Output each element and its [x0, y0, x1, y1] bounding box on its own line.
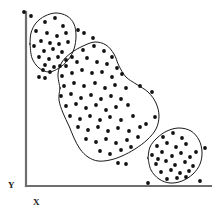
data-point: [187, 169, 191, 173]
data-point: [32, 44, 36, 48]
data-point: [92, 44, 96, 48]
data-point: [170, 154, 174, 158]
data-point: [164, 159, 168, 163]
data-point: [75, 60, 79, 64]
data-point: [84, 106, 88, 110]
data-point: [119, 148, 123, 152]
data-point: [99, 97, 103, 101]
data-point: [114, 141, 118, 145]
data-point: [119, 97, 123, 101]
data-point: [22, 10, 26, 14]
data-point: [37, 75, 41, 79]
data-point: [39, 39, 43, 43]
data-point: [104, 137, 108, 141]
data-point: [43, 63, 47, 67]
data-point: [43, 76, 47, 80]
data-point: [115, 66, 119, 70]
data-point: [119, 118, 123, 122]
data-point: [178, 171, 182, 175]
cluster-contour-cluster-center: [58, 42, 159, 161]
data-point: [131, 114, 135, 118]
data-point: [161, 135, 165, 139]
data-point: [198, 179, 202, 183]
data-point: [95, 60, 99, 64]
data-point: [109, 94, 113, 98]
data-point: [98, 149, 102, 153]
data-point: [82, 31, 86, 35]
data-point: [169, 168, 173, 172]
data-point: [116, 126, 120, 130]
data-point: [175, 176, 179, 180]
data-point: [138, 125, 142, 129]
data-point: [155, 144, 159, 148]
data-point: [124, 86, 128, 90]
data-point: [179, 151, 183, 155]
data-point: [174, 145, 178, 149]
data-point: [150, 153, 154, 157]
data-point: [129, 145, 133, 149]
data-point: [98, 118, 102, 122]
data-point: [70, 55, 74, 59]
data-point: [126, 103, 130, 107]
data-point: [64, 64, 68, 68]
data-point: [60, 50, 64, 54]
data-point: [86, 128, 90, 132]
data-point: [41, 68, 45, 72]
data-point: [76, 125, 80, 129]
data-point: [93, 81, 97, 85]
data-point: [57, 42, 61, 46]
data-point: [188, 155, 192, 159]
cluster-contours: [30, 13, 202, 183]
data-point: [29, 14, 33, 18]
data-point: [125, 138, 129, 142]
data-point: [124, 162, 128, 166]
data-point: [43, 20, 47, 24]
data-point: [68, 114, 72, 118]
data-point: [74, 102, 78, 106]
data-point: [55, 34, 59, 38]
data-point: [52, 65, 56, 69]
data-point: [180, 136, 184, 140]
data-point: [120, 72, 124, 76]
data-point: [160, 150, 164, 154]
data-point: [171, 131, 175, 135]
cluster-contour-cluster-bottom-right: [148, 128, 202, 183]
data-point: [100, 70, 104, 74]
data-point: [102, 49, 106, 53]
data-point: [62, 84, 66, 88]
data-point: [81, 48, 85, 52]
data-point: [80, 68, 84, 72]
data-point: [110, 75, 114, 79]
data-point: [105, 62, 109, 66]
data-point: [194, 150, 198, 154]
data-point: [56, 55, 60, 59]
data-point: [37, 55, 41, 59]
data-point: [61, 24, 65, 28]
data-point: [183, 160, 187, 164]
data-point: [106, 129, 110, 133]
data-point: [103, 86, 107, 90]
data-point: [79, 96, 83, 100]
scatter-plot-figure: Y X: [0, 0, 217, 213]
data-point: [89, 93, 93, 97]
data-point: [47, 57, 51, 61]
data-point: [64, 58, 68, 62]
data-point: [94, 140, 98, 144]
data-point: [150, 90, 154, 94]
data-point: [66, 40, 70, 44]
axes: [26, 12, 211, 186]
data-point: [156, 157, 160, 161]
data-point: [191, 164, 195, 168]
data-point: [76, 28, 80, 32]
data-point: [116, 161, 120, 165]
data-point: [114, 105, 118, 109]
data-point: [64, 104, 68, 108]
data-point: [90, 71, 94, 75]
data-point: [78, 117, 82, 121]
data-point: [184, 175, 188, 179]
data-point: [91, 36, 95, 40]
data-point: [69, 92, 73, 96]
data-point: [48, 41, 52, 45]
data-point: [159, 170, 163, 174]
data-point: [94, 103, 98, 107]
